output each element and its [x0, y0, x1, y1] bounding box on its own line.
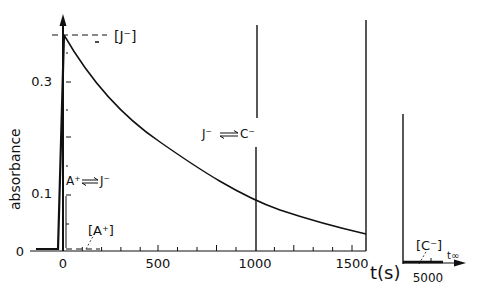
- C-concentration-label: [C⁻]: [416, 238, 442, 253]
- separator-lines: [256, 20, 403, 264]
- y-tick-0.1: 0.1: [31, 186, 52, 201]
- A-concentration-label: [A⁺]: [88, 223, 114, 238]
- y-tick-0.3: 0.3: [31, 74, 52, 89]
- arrow-up-icon: [60, 14, 67, 26]
- data-line: [36, 35, 366, 249]
- x-tick-0: 0: [59, 256, 67, 271]
- x-axis: [30, 245, 366, 251]
- x-axis-label: t(s): [370, 262, 400, 283]
- equilibrium-A-J: A⁺ J⁻: [66, 174, 110, 188]
- x-tick-1000: 1000: [238, 256, 271, 271]
- svg-text:J⁻: J⁻: [201, 127, 212, 141]
- t-infinity-label: t∞: [447, 250, 459, 261]
- svg-text:A⁺: A⁺: [66, 174, 81, 188]
- svg-text:C⁻: C⁻: [240, 127, 255, 141]
- x-tick-1500: 1500: [335, 256, 368, 271]
- J-concentration-label: [J⁻]: [114, 28, 136, 44]
- x-tick-5000: 5000: [413, 271, 444, 285]
- svg-text:J⁻: J⁻: [99, 174, 110, 188]
- equilibrium-J-C: J⁻ C⁻: [201, 127, 255, 141]
- y-tick-0: 0: [16, 244, 24, 259]
- x-tick-500: 500: [146, 256, 171, 271]
- y-axis-label: absorbance: [7, 128, 23, 210]
- absorbance-chart: absorbance 0 0.1 0.3 0 500 1000 1500 500…: [0, 0, 484, 294]
